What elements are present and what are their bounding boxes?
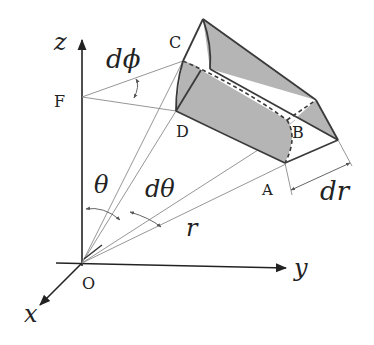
r-label: r [186,214,199,242]
x-axis [40,263,82,305]
dphi-label: dϕ [106,44,141,74]
point-D-label: D [176,122,189,141]
y-axis [56,263,286,268]
volume-element [176,19,338,163]
theta-label: θ [94,171,109,199]
spherical-volume-diagram: z y x O F C D B A dϕ θ dθ r dr [0,0,374,345]
point-F-label: F [54,92,65,111]
y-axis-label: y [293,254,308,282]
origin-label: O [82,274,95,293]
dphi-arc [134,79,138,98]
dr-label: dr [320,176,351,206]
point-B-label: B [292,123,304,142]
x-axis-label: x [24,300,38,328]
point-C-label: C [169,33,181,52]
dtheta-arc [130,212,161,227]
dtheta-label: dθ [145,175,175,203]
point-A-label: A [261,181,273,199]
z-axis-label: z [53,28,67,56]
